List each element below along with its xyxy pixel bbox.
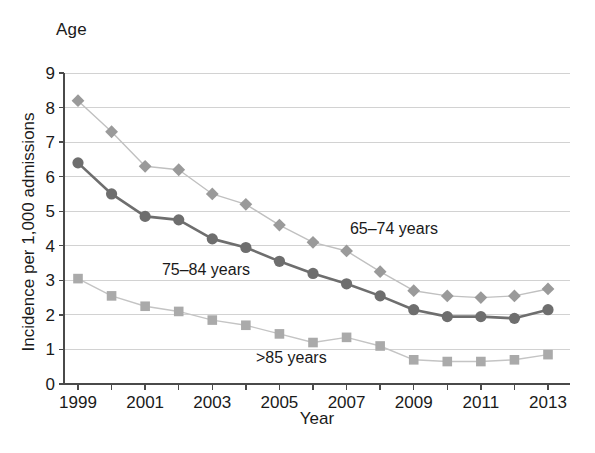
x-tick-labels-group: 19992001200320052007200920112013 <box>59 384 567 412</box>
data-point-marker <box>73 274 83 284</box>
y-tick-label: 7 <box>46 133 55 152</box>
data-point-marker <box>341 278 352 289</box>
x-tick-label: 2013 <box>529 393 567 412</box>
clipped-caption-remnant <box>0 441 595 453</box>
axes-group <box>64 73 570 384</box>
series-lines-group <box>78 101 548 362</box>
data-point-marker <box>342 333 352 343</box>
series-label: 75–84 years <box>162 261 250 278</box>
y-tick-label: 5 <box>46 202 55 221</box>
data-point-marker <box>273 219 286 232</box>
series-label: >85 years <box>256 349 327 366</box>
data-point-marker <box>307 236 320 249</box>
data-point-marker <box>239 198 252 211</box>
data-point-marker <box>140 211 151 222</box>
data-point-marker <box>543 350 553 360</box>
y-tick-labels-group: 0123456789 <box>46 64 64 394</box>
data-point-marker <box>510 355 520 365</box>
data-point-marker <box>442 311 453 322</box>
data-point-marker <box>106 188 117 199</box>
data-point-marker <box>207 315 217 325</box>
data-point-marker <box>509 313 520 324</box>
data-point-marker <box>475 311 486 322</box>
x-tick-label: 2001 <box>126 393 164 412</box>
data-point-marker <box>441 289 454 302</box>
data-point-marker <box>173 214 184 225</box>
data-point-marker <box>542 283 555 296</box>
data-point-marker <box>307 268 318 279</box>
data-point-marker <box>206 188 219 201</box>
data-point-marker <box>508 289 521 302</box>
data-point-marker <box>308 338 318 348</box>
data-point-marker <box>408 304 419 315</box>
y-tick-label: 0 <box>46 375 55 394</box>
data-point-marker <box>375 341 385 351</box>
data-point-marker <box>174 307 184 317</box>
line-chart-plot: 0123456789 19992001200320052007200920112… <box>0 0 595 453</box>
data-point-marker <box>275 329 285 339</box>
data-point-marker <box>375 290 386 301</box>
series-markers-group <box>72 94 555 366</box>
data-point-marker <box>172 163 185 176</box>
x-tick-label: 2003 <box>193 393 231 412</box>
figure-container: Age Incidence per 1,000 admissions Year … <box>0 0 595 453</box>
x-tick-label: 2005 <box>261 393 299 412</box>
data-point-marker <box>474 291 487 304</box>
data-point-marker <box>274 256 285 267</box>
data-point-marker <box>407 284 420 297</box>
data-point-marker <box>542 304 553 315</box>
data-point-marker <box>241 320 251 330</box>
y-tick-label: 4 <box>46 237 55 256</box>
y-tick-label: 1 <box>46 340 55 359</box>
data-point-marker <box>374 265 387 278</box>
data-point-marker <box>340 245 353 258</box>
data-point-marker <box>207 233 218 244</box>
data-point-marker <box>442 357 452 367</box>
y-tick-label: 6 <box>46 168 55 187</box>
y-tick-label: 2 <box>46 306 55 325</box>
y-tick-label: 3 <box>46 271 55 290</box>
data-point-marker <box>72 157 83 168</box>
data-point-marker <box>476 357 486 367</box>
x-tick-label: 1999 <box>59 393 97 412</box>
x-tick-label: 2011 <box>463 393 500 412</box>
gridlines-group <box>64 73 570 349</box>
data-point-marker <box>240 242 251 253</box>
data-point-marker <box>140 301 150 311</box>
data-point-marker <box>107 291 117 301</box>
x-tick-label: 2007 <box>328 393 366 412</box>
y-tick-label: 9 <box>46 64 55 83</box>
series-annotation-labels-group: 65–74 years75–84 years>85 years <box>162 220 438 366</box>
data-point-marker <box>409 355 419 365</box>
x-tick-label: 2009 <box>395 393 433 412</box>
y-tick-label: 8 <box>46 99 55 118</box>
series-label: 65–74 years <box>350 220 438 237</box>
